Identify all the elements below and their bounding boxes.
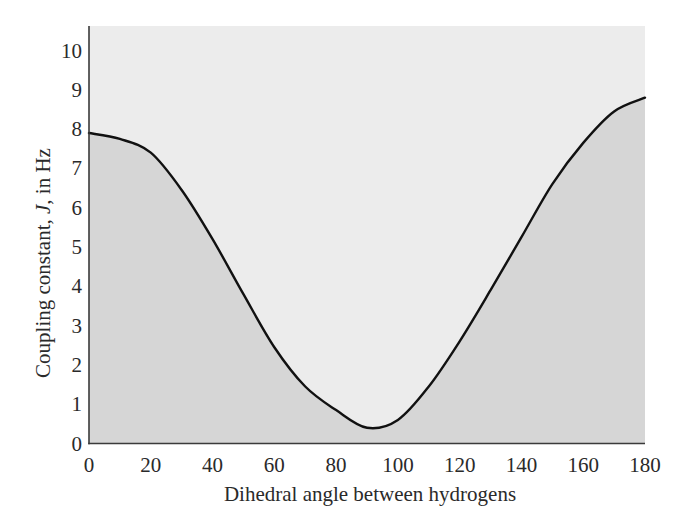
karplus-chart: 012345678910 020406080100120140160180 Di… bbox=[0, 0, 688, 527]
x-tick-label: 160 bbox=[567, 453, 599, 477]
x-tick-label: 180 bbox=[629, 453, 661, 477]
y-tick-label: 0 bbox=[72, 432, 83, 456]
x-tick-label: 120 bbox=[444, 453, 476, 477]
x-tick-label: 60 bbox=[264, 453, 285, 477]
y-tick-label: 5 bbox=[72, 235, 83, 259]
y-tick-label: 7 bbox=[72, 156, 83, 180]
x-tick-label: 40 bbox=[202, 453, 223, 477]
y-tick-label: 6 bbox=[72, 196, 83, 220]
x-tick-labels: 020406080100120140160180 bbox=[84, 453, 661, 477]
y-tick-label: 2 bbox=[72, 353, 83, 377]
x-tick-label: 0 bbox=[84, 453, 95, 477]
y-tick-label: 3 bbox=[72, 314, 83, 338]
y-tick-label: 9 bbox=[72, 78, 83, 102]
x-tick-label: 80 bbox=[326, 453, 347, 477]
y-tick-label: 1 bbox=[72, 392, 83, 416]
x-tick-label: 100 bbox=[382, 453, 414, 477]
y-tick-label: 10 bbox=[61, 39, 82, 63]
x-tick-label: 20 bbox=[140, 453, 161, 477]
y-tick-labels: 012345678910 bbox=[61, 39, 83, 456]
y-tick-label: 8 bbox=[72, 117, 83, 141]
plot-area bbox=[89, 26, 645, 444]
y-axis-title-part1: Coupling constant, bbox=[31, 214, 55, 378]
y-tick-label: 4 bbox=[72, 274, 83, 298]
y-axis-title-part2: , in Hz bbox=[31, 148, 55, 205]
x-axis-title: Dihedral angle between hydrogens bbox=[224, 482, 516, 506]
x-tick-label: 140 bbox=[506, 453, 538, 477]
y-axis-title: Coupling constant, J, in Hz bbox=[31, 148, 55, 378]
